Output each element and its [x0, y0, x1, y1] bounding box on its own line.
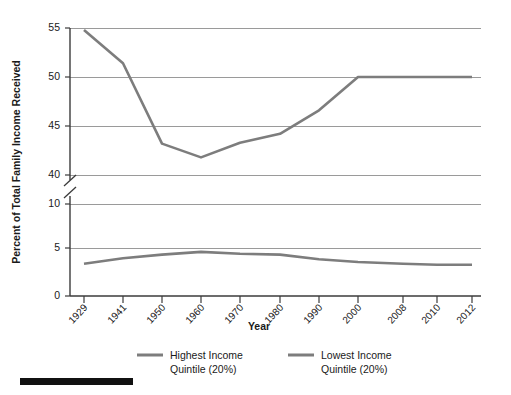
- x-tick-label-2010: 2010: [419, 302, 443, 326]
- y-tick-label-55: 55: [48, 21, 60, 33]
- x-tick-label-2012: 2012: [454, 302, 478, 326]
- y-axis-title: Percent of Total Family Income Received: [10, 60, 22, 263]
- gridlines-group: [70, 28, 481, 248]
- legend-label-lowest-line1: Lowest Income: [321, 349, 392, 361]
- x-tick-label-1970: 1970: [222, 302, 246, 326]
- y-tick-label-50: 50: [48, 70, 60, 82]
- legend-label-highest-line2: Quintile (20%): [170, 363, 237, 375]
- income-distribution-line-chart: 55 50 45 40 10 5 0 Percent of Total Fami…: [0, 0, 511, 395]
- x-tick-label-2008: 2008: [385, 302, 409, 326]
- chart-container: 55 50 45 40 10 5 0 Percent of Total Fami…: [0, 0, 511, 395]
- y-tick-label-0: 0: [54, 289, 60, 301]
- legend-label-lowest-line2: Quintile (20%): [321, 363, 388, 375]
- y-tick-label-10: 10: [48, 197, 60, 209]
- y-tick-label-5: 5: [54, 241, 60, 253]
- series-line-lowest-income-quintile: [84, 252, 472, 265]
- y-tick-label-40: 40: [48, 168, 60, 180]
- x-tick-labels: 1929 1941 1950 1960 1970 1980 1990 2000 …: [66, 302, 478, 326]
- x-tick-label-1950: 1950: [144, 302, 168, 326]
- x-tick-label-1960: 1960: [183, 302, 207, 326]
- x-tick-label-1990: 1990: [301, 302, 325, 326]
- legend-label-highest-line1: Highest Income: [170, 349, 243, 361]
- legend: Highest Income Quintile (20%) Lowest Inc…: [137, 349, 392, 375]
- y-tick-labels: 55 50 45 40 10 5 0: [48, 21, 60, 301]
- x-tick-label-1929: 1929: [66, 302, 90, 326]
- data-series-group: [84, 30, 472, 265]
- x-tick-marks: [84, 296, 472, 303]
- x-tick-label-1941: 1941: [105, 302, 129, 326]
- series-line-highest-income-quintile: [84, 30, 472, 157]
- footer-black-bar: [20, 378, 133, 385]
- x-axis-title: Year: [248, 320, 270, 332]
- x-tick-label-2000: 2000: [340, 302, 364, 326]
- y-tick-marks: [65, 28, 70, 296]
- y-tick-label-45: 45: [48, 119, 60, 131]
